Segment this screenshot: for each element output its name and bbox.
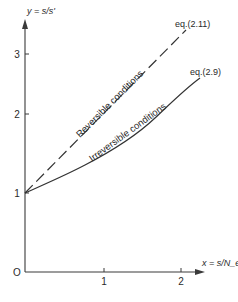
x-axis [25, 269, 205, 275]
x-axis-arrow-icon [195, 269, 205, 275]
y-ticks: 1 2 3 [14, 49, 29, 199]
y-tick-label-3: 3 [14, 49, 20, 60]
x-axis-label-text: x = s/N_e [201, 258, 238, 268]
y-axis-arrow-icon [22, 19, 28, 29]
y-tick-label-2: 2 [14, 109, 20, 120]
x-axis-label: x = s/N_e [201, 258, 238, 268]
y-axis-label: y = s/s' [26, 6, 55, 16]
x-ticks: 1 2 [101, 268, 184, 287]
y-axis-label-text: y = s/s' [26, 6, 55, 16]
x-tick-label-1: 1 [101, 276, 107, 287]
y-axis [22, 19, 28, 272]
origin-label: O [13, 267, 21, 278]
x-tick-label-2: 2 [178, 276, 184, 287]
chart: 1 2 3 1 2 O y = s/s' x = s/N_e Reversibl… [0, 0, 238, 302]
eq-2-9-label: eq.(2.9) [190, 67, 221, 77]
eq-2-11-label: eq.(2.11) [175, 19, 210, 29]
y-tick-label-1: 1 [14, 188, 20, 199]
